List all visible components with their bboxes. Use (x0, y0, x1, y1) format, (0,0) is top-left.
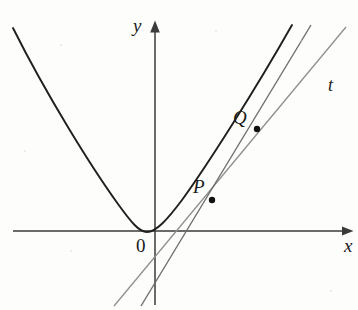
figure-canvas (0, 0, 358, 310)
tangent-line-t (114, 27, 346, 306)
math-figure: y x 0 P Q t (0, 0, 358, 310)
point-p-marker (209, 197, 215, 203)
tangent-line-label: t (328, 76, 333, 94)
paper-speck (70, 250, 72, 252)
secant-line-pq (141, 25, 311, 306)
y-axis-label: y (133, 16, 141, 35)
x-axis-label: x (344, 236, 352, 255)
paper-speck (60, 44, 62, 46)
paper-speck (215, 30, 217, 32)
paper-speck (300, 40, 302, 42)
point-q-marker (254, 126, 260, 132)
origin-label: 0 (136, 236, 146, 255)
paper-speck (330, 290, 332, 292)
paper-speck (24, 150, 26, 152)
point-q-label: Q (233, 108, 247, 127)
parabola-curve (13, 25, 292, 232)
point-p-label: P (193, 177, 205, 196)
